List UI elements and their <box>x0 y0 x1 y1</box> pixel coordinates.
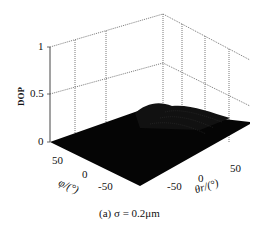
y-tick-0: 0 <box>82 169 88 180</box>
surface-plot <box>0 0 267 227</box>
x-tick-50: 50 <box>230 163 241 174</box>
z-tick-1: 1 <box>38 41 44 52</box>
figure-caption: (a) σ = 0.2μm <box>99 207 160 219</box>
x-tick-minus50: -50 <box>167 181 182 192</box>
z-tick-0.5: 0.5 <box>30 88 44 99</box>
y-tick-minus50: -50 <box>98 181 113 192</box>
z-tick-0: 0 <box>38 136 44 147</box>
y-tick-50: 50 <box>52 155 63 166</box>
z-axis-label: DOP <box>16 87 26 106</box>
